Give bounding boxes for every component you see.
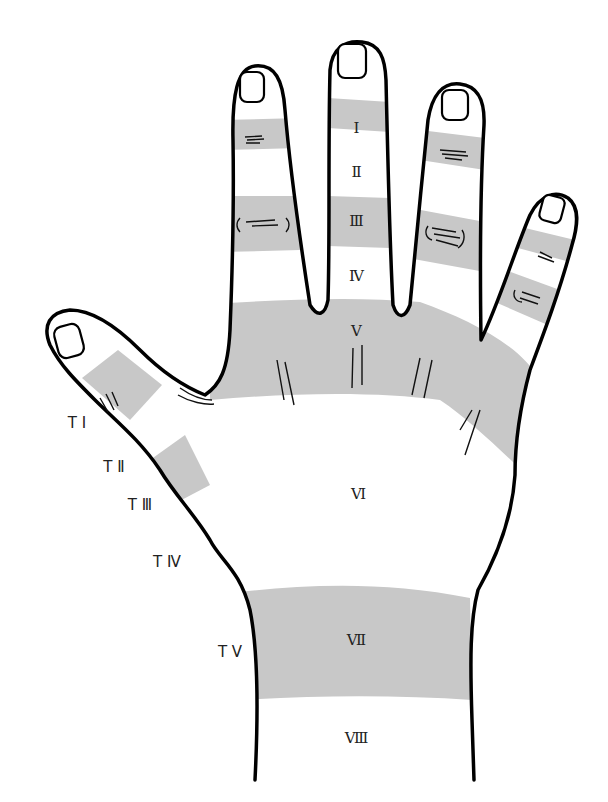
hand-illustration	[0, 0, 608, 802]
zone-label-V: Ⅴ	[351, 322, 361, 340]
nail-thumb	[52, 322, 85, 360]
nail-index	[240, 72, 264, 102]
zone-label-VIII: Ⅷ	[345, 729, 368, 747]
nail-middle	[338, 44, 366, 78]
zone-label-IV: Ⅳ	[349, 267, 363, 285]
zone-label-I: Ⅰ	[354, 119, 359, 137]
thumb-zone-label-TV: T Ⅴ	[218, 643, 242, 661]
thumb-zone-label-TIV: T Ⅳ	[153, 553, 181, 571]
thumb-zone-label-TIII: T Ⅲ	[128, 496, 152, 514]
zone-label-VI: Ⅵ	[351, 485, 365, 503]
nail-ring	[442, 90, 468, 120]
thumb-zone-label-TI: T Ⅰ	[68, 414, 86, 432]
zone-label-II: Ⅱ	[351, 163, 360, 181]
zone-label-VII: Ⅶ	[347, 631, 365, 649]
thumb-zone-label-TII: T Ⅱ	[103, 458, 124, 476]
hand-zone-diagram: Ⅰ Ⅱ Ⅲ Ⅳ Ⅴ Ⅵ Ⅶ Ⅷ T Ⅰ T Ⅱ T Ⅲ T Ⅳ T Ⅴ	[0, 0, 608, 802]
zone-label-III: Ⅲ	[349, 212, 362, 230]
